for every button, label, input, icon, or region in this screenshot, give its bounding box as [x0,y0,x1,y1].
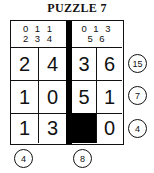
thick-divider [66,21,72,144]
grid-cell-r0-c0[interactable]: 2 [11,48,38,80]
grid-cell-r1-c1[interactable]: 0 [38,80,66,113]
column-clue-0: 4 [14,149,33,168]
grid-cell-r1-c0[interactable]: 1 [11,80,38,113]
header-right-digits: 0 1 3 5 6 [72,21,122,48]
row-clue-2: 4 [128,119,147,138]
column-clue-1: 8 [73,149,92,168]
grid-cell-r0-c2[interactable]: 3 [72,48,96,80]
header-right-line2: 5 6 [72,34,122,44]
grid-cell-r1-c2[interactable]: 5 [72,80,96,113]
header-left-line2: 2 3 4 [11,34,66,44]
grid-cell-r1-c3[interactable]: 1 [96,80,122,113]
grid-cell-r2-c3[interactable]: 0 [96,113,122,143]
puzzle-grid: 0 1 1 2 3 4 0 1 3 5 6 2 4 3 6 1 0 5 1 1 … [10,20,124,145]
grid-cell-r2-c0[interactable]: 1 [11,113,38,143]
grid-cell-r0-c1[interactable]: 4 [38,48,66,80]
header-left-digits: 0 1 1 2 3 4 [11,21,66,48]
puzzle-title: PUZZLE 7 [0,1,154,16]
row-clue-0: 15 [128,54,147,73]
row-clue-1: 7 [128,86,147,105]
grid-cell-r0-c3[interactable]: 6 [96,48,122,80]
grid-cell-r2-c1[interactable]: 3 [38,113,66,143]
